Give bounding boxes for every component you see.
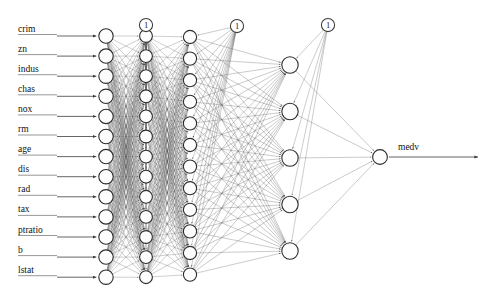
- network-edge: [296, 71, 374, 151]
- hidden-layer-1-node: [140, 110, 153, 123]
- network-edge: [195, 118, 284, 205]
- input-label-age: age: [18, 144, 31, 154]
- hidden-layer-2-node: [183, 225, 196, 238]
- hidden-layer-2-node: [183, 160, 196, 173]
- network-io-arrows: [18, 35, 478, 278]
- input-layer-node: [99, 89, 113, 103]
- network-edge: [152, 257, 184, 274]
- hidden-layer-1-node: [140, 130, 153, 143]
- input-label-rad: rad: [18, 184, 30, 194]
- input-label-nox: nox: [18, 104, 33, 114]
- hidden-layer-1-node: [140, 70, 153, 83]
- network-bias-edge: [195, 31, 233, 74]
- network-bias-edge: [192, 32, 236, 223]
- network-edge: [196, 253, 280, 273]
- input-label-rm: rm: [18, 124, 29, 134]
- hidden-layer-1-node: [140, 170, 153, 183]
- input-layer-node: [99, 69, 113, 83]
- input-layer-node: [99, 270, 113, 284]
- hidden-layer-2-node: [183, 74, 196, 87]
- input-label-b: b: [18, 245, 23, 255]
- hidden-layer-1-node: [140, 50, 153, 63]
- network-edge: [195, 72, 284, 162]
- hidden-layer-1-node: [140, 271, 153, 284]
- hidden-layer-2-node: [183, 30, 196, 43]
- hidden-layer-1-node: [140, 150, 153, 163]
- network-edge: [152, 275, 182, 277]
- input-layer-node: [99, 170, 113, 184]
- input-layer-node: [99, 29, 113, 43]
- input-label-tax: tax: [18, 204, 30, 214]
- hidden-layer-2-node: [183, 268, 196, 281]
- input-label-chas: chas: [18, 84, 35, 94]
- hidden-layer-1-node: [140, 190, 153, 203]
- input-layer-node: [99, 129, 113, 143]
- input-label-lstat: lstat: [18, 265, 34, 275]
- bias-node-label: 1: [144, 20, 148, 30]
- network-edge: [298, 157, 371, 158]
- hidden-layer-2-node: [183, 182, 196, 195]
- network-bias-edge: [293, 31, 327, 149]
- network-edge: [197, 59, 281, 64]
- network-bias-edge: [196, 30, 231, 54]
- input-layer-node: [99, 109, 113, 123]
- network-edge: [193, 73, 285, 247]
- network-edge: [195, 164, 283, 248]
- input-label-crim: crim: [18, 24, 36, 34]
- network-edge: [196, 192, 282, 246]
- network-edge: [197, 113, 281, 123]
- bias-node-label: 1: [326, 20, 330, 30]
- hidden-layer-3-node: [282, 103, 298, 119]
- network-bias-edge: [192, 32, 235, 202]
- input-layer-node: [99, 230, 113, 244]
- network-edge: [152, 36, 182, 37]
- hidden-layer-2-node: [183, 138, 196, 151]
- hidden-layer-1-node: [140, 90, 153, 103]
- hidden-layer-3-node: [282, 57, 298, 73]
- input-layer-node: [99, 190, 113, 204]
- network-edge: [196, 39, 281, 63]
- hidden-layer-2-node: [183, 117, 196, 130]
- hidden-layer-1-node: [140, 211, 153, 224]
- hidden-layer-3-node: [282, 150, 298, 166]
- hidden-layer-3-node: [282, 196, 298, 212]
- network-diagram-canvas: crimzninduschasnoxrmagedisradtaxptratiob…: [0, 0, 490, 305]
- hidden-layer-2-node: [183, 203, 196, 216]
- network-bias-edge: [192, 32, 236, 245]
- network-edge: [194, 129, 284, 244]
- hidden-layer-2-node: [183, 52, 196, 65]
- network-edge: [296, 163, 374, 245]
- network-nodes: [99, 18, 388, 284]
- network-edge: [297, 161, 372, 201]
- output-layer-node: [373, 150, 388, 165]
- bias-node-label: 1: [235, 21, 239, 31]
- input-layer-node: [99, 210, 113, 224]
- input-label-dis: dis: [18, 164, 29, 174]
- input-layer-node: [99, 250, 113, 264]
- hidden-layer-2-node: [183, 246, 196, 259]
- hidden-layer-1-node: [140, 251, 153, 264]
- input-label-ptratio: ptratio: [18, 225, 43, 235]
- hidden-layer-1-node: [140, 231, 153, 244]
- input-layer-node: [99, 149, 113, 163]
- hidden-layer-3-node: [282, 243, 298, 259]
- hidden-layer-2-node: [183, 95, 196, 108]
- network-diagram-svg: crimzninduschasnoxrmagedisradtaxptratiob…: [0, 0, 490, 305]
- input-label-zn: zn: [18, 44, 27, 54]
- input-layer-node: [99, 49, 113, 63]
- network-edge: [297, 115, 372, 153]
- input-label-indus: indus: [18, 64, 39, 74]
- output-label-medv: medv: [398, 142, 419, 152]
